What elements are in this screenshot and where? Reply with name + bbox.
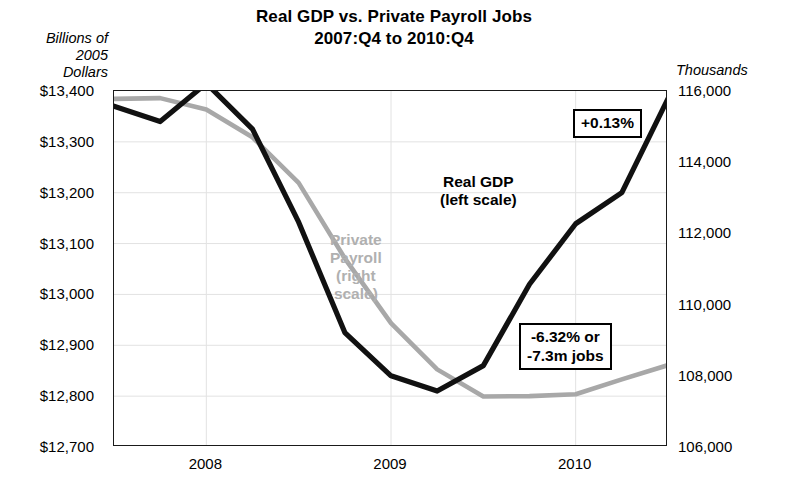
right-axis-title: Thousands xyxy=(676,62,788,79)
callout-gdp-text: +0.13% xyxy=(581,114,634,133)
left-axis-title: Billions of 2005 Dollars xyxy=(8,30,108,81)
left-axis-title-line-3: Dollars xyxy=(8,64,108,81)
series-label-payroll-line-3: (right xyxy=(330,267,382,285)
chart-title-line-1: Real GDP vs. Private Payroll Jobs xyxy=(0,6,788,28)
left-axis-title-line-1: Billions of xyxy=(8,30,108,47)
chart-figure: Real GDP vs. Private Payroll Jobs 2007:Q… xyxy=(0,0,788,495)
series-label-payroll-line-1: Private xyxy=(330,231,382,249)
x-axis-tick: 2008 xyxy=(189,455,222,472)
left-axis-tick: $13,300 xyxy=(0,132,94,149)
left-axis-tick: $12,800 xyxy=(0,387,94,404)
series-label-gdp-line-1: Real GDP xyxy=(440,173,517,191)
right-axis-tick: 112,000 xyxy=(678,224,782,241)
left-axis-tick: $12,900 xyxy=(0,336,94,353)
right-axis-tick: 114,000 xyxy=(678,153,782,170)
callout-gdp-change: +0.13% xyxy=(573,109,642,138)
x-axis-tick: 2009 xyxy=(373,455,406,472)
callout-payroll-line-1: -6.32% or xyxy=(527,328,604,347)
left-axis-tick: $13,100 xyxy=(0,234,94,251)
left-axis-tick: $13,000 xyxy=(0,285,94,302)
chart-title: Real GDP vs. Private Payroll Jobs 2007:Q… xyxy=(0,6,788,50)
series-label-payroll-line-2: Payroll xyxy=(330,249,382,267)
right-axis-tick: 110,000 xyxy=(678,295,782,312)
left-axis-tick: $12,700 xyxy=(0,438,94,455)
x-axis-tick: 2010 xyxy=(558,455,591,472)
chart-title-line-2: 2007:Q4 to 2010:Q4 xyxy=(0,28,788,50)
left-axis-title-line-2: 2005 xyxy=(8,47,108,64)
plot-inner xyxy=(114,91,666,445)
series-label-payroll-line-4: scale) xyxy=(330,285,382,303)
chart-svg xyxy=(114,91,666,445)
series-label-gdp: Real GDP (left scale) xyxy=(440,173,517,209)
series-label-gdp-line-2: (left scale) xyxy=(440,191,517,209)
right-axis-tick: 116,000 xyxy=(678,82,782,99)
right-axis-tick: 106,000 xyxy=(678,438,782,455)
series-label-payroll: Private Payroll (right scale) xyxy=(330,231,382,304)
right-axis-tick: 108,000 xyxy=(678,366,782,383)
callout-payroll-line-2: -7.3m jobs xyxy=(527,347,604,366)
plot-area xyxy=(113,90,667,446)
left-axis-tick: $13,400 xyxy=(0,82,94,99)
left-axis-tick: $13,200 xyxy=(0,183,94,200)
callout-payroll-change: -6.32% or -7.3m jobs xyxy=(519,323,612,370)
